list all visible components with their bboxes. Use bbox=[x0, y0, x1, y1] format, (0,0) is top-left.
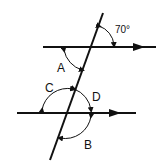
bottom-line-arrow-icon bbox=[109, 109, 121, 117]
top-line-arrow-icon bbox=[133, 43, 145, 51]
angle-c-label: C bbox=[45, 81, 54, 95]
angle-d-label: D bbox=[92, 90, 101, 104]
angle-b-label: B bbox=[84, 138, 92, 152]
angle-70-arc bbox=[99, 26, 114, 45]
angle-d-arc bbox=[74, 89, 91, 110]
transversal-line bbox=[50, 13, 103, 160]
diagram-canvas: 70° A C D B bbox=[0, 0, 164, 166]
angle-70-label: 70° bbox=[115, 24, 130, 35]
angle-a-arc bbox=[64, 50, 82, 70]
angle-a-label: A bbox=[57, 61, 65, 75]
